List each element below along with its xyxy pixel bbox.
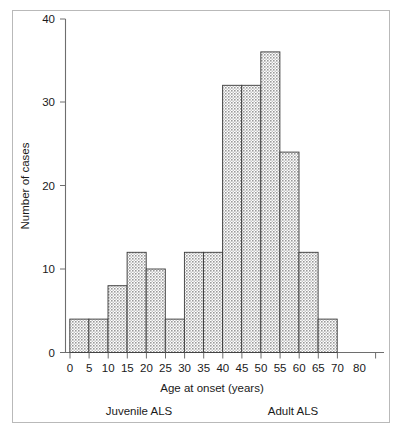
x-tick-label-30: 30	[178, 362, 191, 374]
x-tick-label-40: 40	[216, 362, 229, 374]
x-tick-label-50: 50	[255, 362, 268, 374]
x-tick-label-65: 65	[312, 362, 325, 374]
x-tick-label-80: 80	[353, 362, 366, 374]
bar-62.5-67.5	[299, 252, 318, 352]
bar-42.5-47.5	[223, 85, 242, 352]
bar-47.5-52.5	[242, 85, 261, 352]
y-tick-label-30: 30	[42, 96, 55, 108]
adult-als-label: Adult ALS	[268, 405, 319, 417]
y-axis-title: Number of cases	[19, 142, 31, 229]
bar-37.5-42.5	[204, 252, 223, 352]
x-tick-label-15: 15	[121, 362, 134, 374]
bar-52.5-57.5	[261, 52, 280, 353]
bar-7.5-12.5	[89, 319, 108, 352]
y-tick-label-20: 20	[42, 180, 55, 192]
x-tick-label-25: 25	[159, 362, 172, 374]
y-tick-label-40: 40	[42, 13, 55, 25]
x-tick-label-55: 55	[274, 362, 287, 374]
figure-canvas: 0 10 20 30 40 Number of cases	[0, 0, 405, 437]
juvenile-als-label: Juvenile ALS	[106, 405, 173, 417]
y-axis-ticks: 0 10 20 30 40	[42, 13, 65, 359]
bar-57.5-62.5	[280, 152, 299, 352]
x-tick-label-5: 5	[86, 362, 92, 374]
x-tick-label-45: 45	[236, 362, 249, 374]
x-tick-label-0: 0	[67, 362, 73, 374]
x-tick-label-70: 70	[331, 362, 344, 374]
histogram-chart: 0 10 20 30 40 Number of cases	[0, 0, 405, 437]
x-tick-label-10: 10	[102, 362, 115, 374]
x-axis-title: Age at onset (years)	[160, 382, 264, 394]
bar-2.5-7.5	[70, 319, 89, 352]
bar-32.5-37.5	[184, 252, 203, 352]
bar-22.5-27.5	[146, 269, 165, 353]
x-tick-label-60: 60	[293, 362, 306, 374]
bars-group	[70, 52, 337, 353]
bar-12.5-17.5	[108, 286, 127, 353]
y-tick-label-0: 0	[49, 347, 55, 359]
x-tick-label-35: 35	[197, 362, 210, 374]
bar-67.5-72.5	[318, 319, 337, 352]
bar-27.5-32.5	[165, 319, 184, 352]
bar-17.5-22.5	[127, 252, 146, 352]
x-tick-label-20: 20	[140, 362, 153, 374]
y-tick-label-10: 10	[42, 263, 55, 275]
x-axis-ticks: 0 5 10 15 20 25 30 35 40 45 50 55 60 65 …	[67, 353, 376, 375]
